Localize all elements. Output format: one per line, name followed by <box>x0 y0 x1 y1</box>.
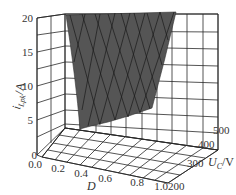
y-tick: 300 <box>187 157 204 169</box>
z-axis: 20 15 10 5 0 iLpk/A <box>9 12 37 161</box>
y-tick: 500 <box>213 124 230 136</box>
z-tick: 15 <box>22 46 34 58</box>
surface-chart: 20 15 10 5 0 iLpk/A 0.0 0.2 0.4 0.6 0.8 … <box>0 0 236 195</box>
x-tick: 1.0 <box>154 180 168 192</box>
z-axis-label: iLpk/A <box>9 81 30 111</box>
x-tick: 0.6 <box>98 172 112 184</box>
y-tick: 200 <box>168 180 185 192</box>
x-tick: 0.2 <box>51 162 65 174</box>
z-tick: 5 <box>28 114 34 126</box>
floor-grid <box>42 128 218 183</box>
x-tick: 0.0 <box>28 158 42 170</box>
x-tick: 0.8 <box>130 176 144 188</box>
y-axis: 200 300 400 500 UC/V <box>168 124 234 192</box>
x-tick: 0.4 <box>74 167 88 179</box>
x-axis: 0.0 0.2 0.4 0.6 0.8 1.0 D <box>28 158 168 193</box>
z-tick: 20 <box>22 12 34 24</box>
x-axis-label: D <box>86 179 96 193</box>
surface <box>66 12 176 129</box>
y-axis-label: UC/V <box>208 155 234 171</box>
y-tick: 400 <box>198 138 215 150</box>
